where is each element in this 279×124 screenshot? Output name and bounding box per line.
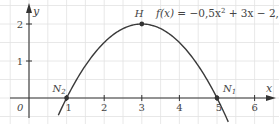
origin-label: 0 bbox=[17, 102, 24, 113]
function-equation-label: f(x) = −0,5x2 + 3x − 2,5 bbox=[155, 7, 279, 19]
x-tick-label: 3 bbox=[139, 102, 145, 113]
function-equation-rest: + 3x − 2,5 bbox=[225, 7, 279, 19]
x-tick-label: 1 bbox=[65, 102, 71, 113]
axis-ticks: 12345612 bbox=[17, 19, 258, 113]
function-equation: = −0,5x bbox=[174, 7, 221, 19]
x-axis-label: x bbox=[266, 82, 273, 95]
point-label-n2: N2 bbox=[52, 83, 67, 96]
x-tick-label: 6 bbox=[251, 102, 257, 113]
x-tick-label: 2 bbox=[101, 102, 107, 113]
point-label-n1: N1 bbox=[222, 83, 236, 96]
y-tick-label: 1 bbox=[17, 56, 23, 67]
y-tick-label: 2 bbox=[17, 19, 23, 30]
function-name: f(x) bbox=[155, 7, 174, 19]
point-label-h: H bbox=[134, 8, 144, 19]
point-n2 bbox=[64, 96, 69, 101]
special-points: N2HN1 bbox=[52, 8, 237, 100]
x-tick-label: 4 bbox=[176, 102, 182, 113]
function-graph: 12345612 N2HN1 x y 0 f(x) = −0,5x2 + 3x … bbox=[0, 0, 279, 124]
point-h bbox=[139, 22, 144, 27]
y-axis-label: y bbox=[32, 5, 40, 18]
point-n1 bbox=[215, 96, 220, 101]
